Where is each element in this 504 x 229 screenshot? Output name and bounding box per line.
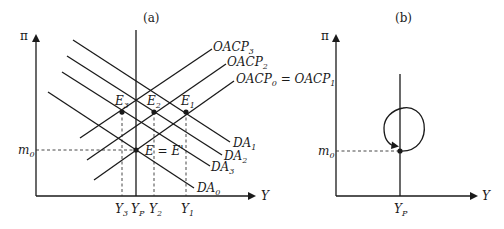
point-e1 xyxy=(183,109,188,114)
panel-b: (b) π Y m0 YP xyxy=(318,11,491,218)
panel-a: (a) π Y E3 E2 E1 E = E' m0 xyxy=(18,11,335,218)
tick-y3: Y3 xyxy=(115,202,128,218)
point-e2 xyxy=(151,109,156,114)
point-equilibrium-b xyxy=(397,148,402,153)
label-e: E = E' xyxy=(144,144,184,158)
y-axis-label-b: π xyxy=(321,29,329,43)
panel-b-title: (b) xyxy=(395,11,412,25)
tick-yp-b: YP xyxy=(394,202,408,218)
y-axis-label: π xyxy=(20,29,28,43)
m0-label: m0 xyxy=(18,143,34,159)
tick-yp: YP xyxy=(131,202,145,218)
adjustment-loop xyxy=(384,108,424,151)
x-axis-label: Y xyxy=(261,189,270,203)
tick-y1: Y1 xyxy=(181,202,194,218)
label-oacp2: OACP2 xyxy=(227,55,268,71)
m0-label-b: m0 xyxy=(318,144,334,160)
loop-arrowhead-icon xyxy=(391,142,399,150)
point-e3 xyxy=(119,109,124,114)
label-e3: E3 xyxy=(114,94,129,110)
label-e1: E1 xyxy=(180,94,195,110)
tick-y2: Y2 xyxy=(149,202,162,218)
label-da0: DA0 xyxy=(196,181,220,197)
point-e xyxy=(133,147,138,152)
label-oacp0: OACP0 = OACP1 xyxy=(236,72,335,88)
figure: (a) π Y E3 E2 E1 E = E' m0 xyxy=(0,0,504,229)
x-axis-label-b: Y xyxy=(482,189,491,203)
panel-a-title: (a) xyxy=(143,11,160,25)
label-oacp3: OACP3 xyxy=(213,40,254,56)
